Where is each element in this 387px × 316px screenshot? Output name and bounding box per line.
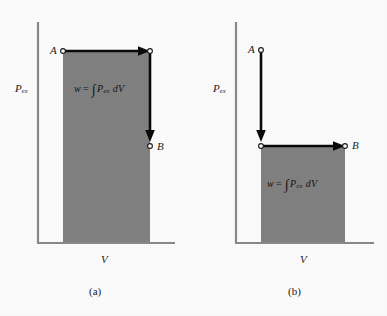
panel-a-y-axis-label: Pex: [15, 83, 28, 95]
panel-b-point-b-marker: [343, 144, 348, 149]
panel-a-y-axis-subscript: ex: [22, 87, 28, 94]
panel-b-formula-lhs: w: [267, 178, 274, 189]
panel-b: A B Pex V w=∫PexdV (b): [193, 0, 387, 316]
work-pressure-volume-figure: A B Pex V w=∫PexdV (a) A B Pex: [0, 0, 387, 316]
panel-b-y-axis-subscript: ex: [220, 87, 226, 94]
panel-a-x-axis-label: V: [101, 254, 108, 265]
panel-a-caption: (a): [89, 285, 101, 297]
panel-a-point-a-marker: [61, 49, 66, 54]
panel-b-y-axis-label: Pex: [213, 83, 226, 95]
panel-a-point-b-label: B: [157, 141, 164, 152]
panel-b-formula-differential: dV: [303, 178, 318, 189]
panel-a-formula: w=∫PexdV: [74, 82, 124, 98]
panel-a-formula-differential: dV: [110, 83, 125, 94]
panel-b-y-axis-symbol: P: [213, 82, 220, 94]
panel-b-formula-operator: =: [274, 178, 284, 189]
panel-b-arrowhead-vertical: [256, 130, 266, 142]
panel-a-point-a-label: A: [50, 45, 57, 56]
panel-a-y-axis-symbol: P: [15, 82, 22, 94]
panel-b-formula: w=∫PexdV: [267, 177, 317, 193]
panel-b-x-axis-label: V: [300, 254, 307, 265]
panel-a-formula-operator: =: [81, 83, 91, 94]
panel-a-point-b-marker: [148, 144, 153, 149]
panel-b-point-a-marker: [259, 48, 264, 53]
panel-b-formula-integrand-subscript: ex: [297, 182, 303, 189]
panel-b-caption: (b): [288, 285, 301, 297]
panel-a-corner-marker: [148, 49, 153, 54]
panel-b-point-a-label: A: [248, 44, 255, 55]
panel-a-formula-integrand-subscript: ex: [104, 87, 110, 94]
panel-a-work-area: [63, 51, 150, 243]
panel-b-corner-marker: [259, 144, 264, 149]
panel-a: A B Pex V w=∫PexdV (a): [0, 0, 193, 316]
panel-b-plot: [193, 0, 387, 260]
panel-a-formula-lhs: w: [74, 83, 81, 94]
panel-b-point-b-label: B: [352, 140, 359, 151]
panel-b-work-area: [261, 146, 345, 243]
panel-a-plot: [0, 0, 193, 260]
